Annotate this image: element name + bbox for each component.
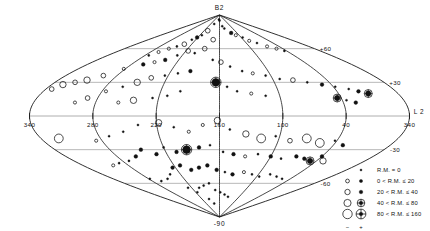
point-marker-positive [134,155,138,159]
point-marker-positive [229,128,231,130]
data-point [244,155,247,158]
data-point [232,152,236,156]
south-pole-label: -90 [214,220,225,227]
data-point [201,34,203,36]
point-marker-positive [118,162,120,164]
point-marker-negative [95,139,98,142]
point-marker-negative [153,61,156,64]
point-marker-negative [211,37,216,42]
point-marker-positive [197,146,201,150]
data-point [334,140,336,142]
legend-filled-symbol [359,179,362,182]
data-point [139,148,143,152]
sky-map-figure: 34028022016010040340L 2B2-90+60+30-30-60… [0,0,430,231]
data-point [167,178,169,180]
point-marker-positive [213,202,215,204]
data-point [163,58,167,62]
data-point [205,28,210,33]
point-marker-positive [218,20,220,22]
point-marker-positive [302,157,306,161]
data-point [178,164,182,168]
point-marker-negative [201,123,204,126]
data-point [181,144,191,154]
point-marker-positive [334,86,336,88]
data-point [197,146,201,150]
data-point [134,155,138,159]
point-marker-positive [195,36,199,40]
data-point [276,176,278,178]
data-point [214,189,216,191]
longitude-axis-name: L 2 [414,108,424,115]
data-point [128,160,130,162]
point-marker-negative [149,75,154,80]
longitude-label-40-5: 40 [342,121,350,128]
data-point [227,196,229,198]
point-marker-negative [130,97,136,103]
point-marker-negative [257,134,266,143]
point-marker-positive [201,34,203,36]
data-point [118,162,120,164]
point-marker-negative [182,42,187,47]
data-point [189,168,193,172]
data-point [155,152,159,156]
point-marker-negative [117,101,120,104]
point-marker-positive [128,160,130,162]
data-point [141,63,145,67]
data-point [243,131,249,137]
data-point [242,36,244,38]
data-point [306,157,314,165]
point-marker-negative [157,50,160,53]
data-point [266,45,269,48]
data-point [333,94,341,102]
point-marker-positive [169,173,171,175]
point-marker-positive [189,69,193,73]
data-point [236,90,238,92]
legend-open-symbol [346,179,350,183]
data-point [364,90,372,98]
point-marker-positive [203,185,205,187]
data-point [241,70,243,72]
point-marker-positive [221,25,223,27]
point-marker-positive [334,140,336,142]
point-marker-positive [122,131,124,133]
point-marker-positive [223,27,225,29]
data-point [149,75,154,80]
data-point [194,52,196,54]
point-marker-positive [151,97,153,99]
point-marker-negative [242,171,245,174]
point-marker-positive [227,196,229,198]
point-marker-negative [291,78,296,83]
point-marker-negative [73,101,76,104]
point-marker-negative [251,72,254,75]
data-point [175,150,179,154]
longitude-label-220-2: 220 [150,121,162,128]
data-point [203,185,205,187]
longitude-label-160-3: 160 [214,121,226,128]
data-point [250,92,253,95]
point-marker-positive [163,58,167,62]
longitude-label-340-0: 340 [24,121,36,128]
point-marker-positive [108,135,110,137]
data-point [280,158,282,160]
data-point [265,75,267,77]
data-point [187,187,189,189]
data-point [171,166,175,170]
legend-label: R.M. = 0 [377,167,401,173]
data-point [257,134,266,143]
point-marker-negative [234,34,237,37]
data-point [213,23,215,25]
data-point [221,25,223,27]
data-point [54,134,63,143]
data-point [242,171,245,174]
point-marker-positive [137,124,139,126]
latitude-label--30: -30 [390,146,400,153]
point-marker-positive [196,191,198,193]
legend-row: 80 < R.M. ≤ 160 [343,209,422,219]
data-point [151,97,153,99]
legend-label: 40 < R.M. ≤ 80 [377,200,418,206]
data-point [191,39,193,41]
point-marker-positive [197,166,201,170]
longitude-label-280-1: 280 [87,121,99,128]
data-point [201,123,204,126]
point-marker-negative [101,73,106,78]
